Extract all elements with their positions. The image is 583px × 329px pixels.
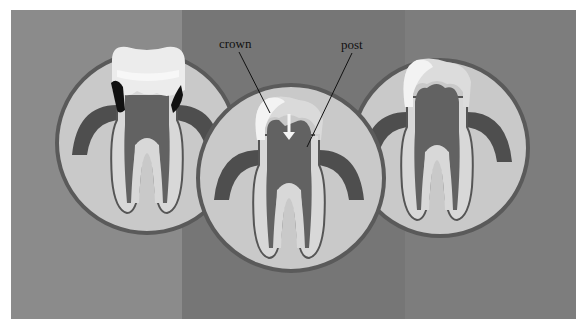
crown-label: crown bbox=[219, 36, 252, 51]
post-label: post bbox=[341, 37, 363, 52]
tooth-restoration-diagram: crown post bbox=[0, 0, 583, 329]
panel-middle-tooth bbox=[198, 85, 384, 271]
